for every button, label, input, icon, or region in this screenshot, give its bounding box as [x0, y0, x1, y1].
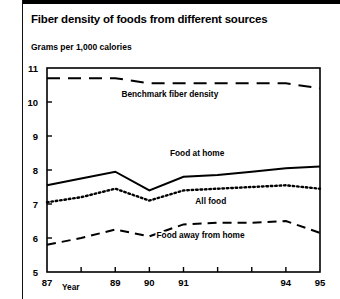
line-chart-plot: 567891011 Benchmark fiber densityBenchma… — [0, 0, 340, 299]
x-tick-label: 90 — [144, 277, 155, 288]
y-tick-label: 9 — [33, 131, 38, 142]
series-line-2 — [47, 185, 320, 202]
chart-series — [47, 78, 320, 245]
series-line-1 — [47, 167, 320, 191]
series-label-2: All food — [195, 196, 226, 206]
y-tick-label: 8 — [33, 165, 38, 176]
x-tick-label: 89 — [110, 277, 121, 288]
y-tick-label: 11 — [28, 63, 39, 74]
chart-x-axis: 878990919495Year — [42, 267, 326, 292]
chart-series-labels: Benchmark fiber densityBenchmark fiber d… — [121, 89, 245, 240]
y-tick-label: 6 — [33, 233, 38, 244]
series-label-3: Food away from home — [157, 230, 245, 240]
x-tick-label: 95 — [315, 277, 326, 288]
series-label-0: Benchmark fiber density — [121, 89, 218, 99]
series-line-0 — [47, 78, 320, 88]
y-tick-label: 10 — [27, 97, 38, 108]
series-label-1: Food at home — [170, 148, 225, 158]
x-tick-label: 94 — [281, 277, 292, 288]
x-tick-label: 91 — [178, 277, 189, 288]
y-tick-label: 7 — [33, 199, 38, 210]
x-tick-label: 87 — [42, 277, 53, 288]
x-axis-title: Year — [62, 282, 80, 292]
y-tick-label: 5 — [33, 267, 39, 278]
chart-figure: Fiber density of foods from different so… — [0, 0, 340, 299]
